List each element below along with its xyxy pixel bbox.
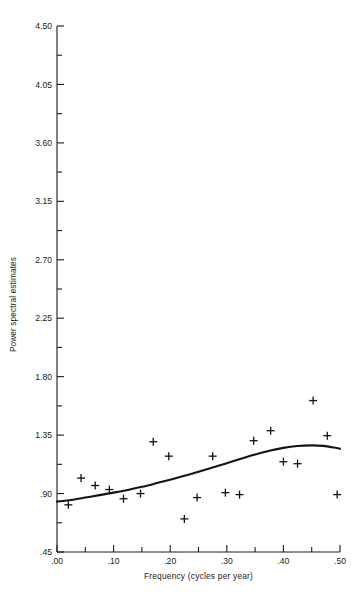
- data-point-marker: [209, 452, 217, 460]
- data-point-markers: [64, 397, 341, 523]
- y-axis-tick-labels: .45.901.351.802.252.703.153.604.054.50: [35, 21, 52, 557]
- data-point-marker: [250, 437, 258, 445]
- data-point-marker: [149, 438, 157, 446]
- y-tick-label: 4.50: [35, 21, 52, 31]
- data-point-marker: [323, 432, 331, 440]
- x-tick-label: .10: [108, 556, 120, 566]
- data-point-marker: [120, 495, 128, 503]
- data-point-marker: [333, 491, 341, 499]
- chart-plot: .45.901.351.802.252.703.153.604.054.50 .…: [0, 0, 357, 597]
- y-axis-ticks: [57, 26, 64, 552]
- x-axis-ticks: [57, 545, 340, 552]
- data-point-marker: [77, 474, 85, 482]
- x-tick-label: .20: [164, 556, 176, 566]
- y-tick-label: 2.25: [35, 313, 52, 323]
- x-tick-label: .50: [334, 556, 346, 566]
- y-tick-label: .90: [40, 489, 52, 499]
- data-point-marker: [236, 491, 244, 499]
- x-axis-tick-labels: .00.10.20.30.40.50: [51, 556, 346, 566]
- figure-container: .45.901.351.802.252.703.153.604.054.50 .…: [0, 0, 357, 597]
- x-axis-label: Frequency (cycles per year): [57, 571, 340, 581]
- data-point-marker: [221, 489, 229, 497]
- y-tick-label: 3.15: [35, 196, 52, 206]
- x-tick-label: .30: [221, 556, 233, 566]
- y-tick-label: 4.05: [35, 80, 52, 90]
- y-tick-label: 1.80: [35, 372, 52, 382]
- data-point-marker: [165, 452, 173, 460]
- data-point-marker: [91, 482, 99, 490]
- data-point-marker: [180, 515, 188, 523]
- y-tick-label: 1.35: [35, 430, 52, 440]
- y-tick-label: 2.70: [35, 255, 52, 265]
- smoothed-spectrum-curve: [57, 445, 340, 501]
- data-point-marker: [309, 397, 317, 405]
- data-point-marker: [267, 427, 275, 435]
- y-tick-label: 3.60: [35, 138, 52, 148]
- data-point-marker: [294, 460, 302, 468]
- x-tick-label: .40: [277, 556, 289, 566]
- data-point-marker: [279, 458, 287, 466]
- x-tick-label: .00: [51, 556, 63, 566]
- data-point-marker: [64, 501, 72, 509]
- data-point-marker: [136, 490, 144, 498]
- data-point-marker: [193, 494, 201, 502]
